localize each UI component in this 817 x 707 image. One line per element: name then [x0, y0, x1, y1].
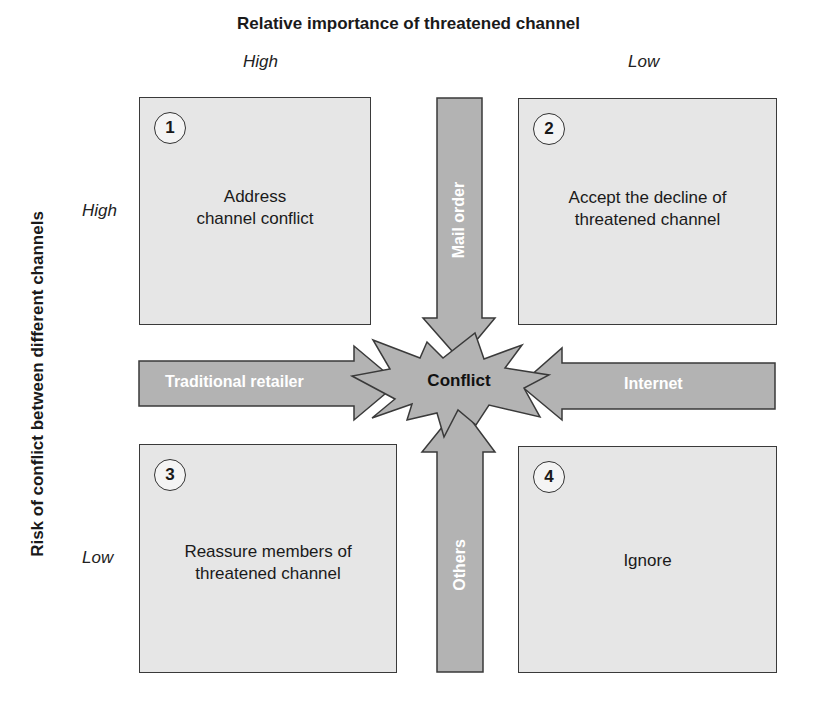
- internet-label: Internet: [624, 375, 683, 393]
- others-label: Others: [451, 539, 469, 591]
- mail-order-label: Mail order: [450, 182, 468, 258]
- arrows-graphic: [0, 0, 817, 707]
- conflict-label: Conflict: [427, 371, 490, 391]
- traditional-retailer-label: Traditional retailer: [165, 373, 304, 391]
